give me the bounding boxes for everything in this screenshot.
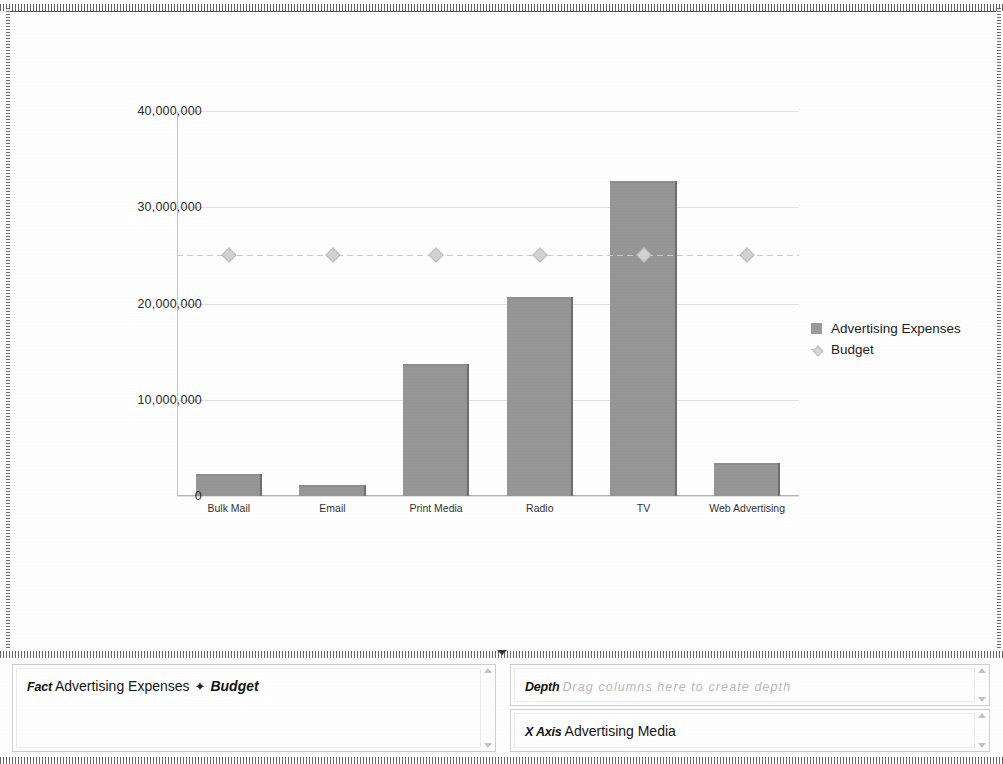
bar-slot	[592, 111, 696, 496]
fact-zone-label: Fact	[27, 680, 52, 694]
x-axis-tick-label: Bulk Mail	[177, 502, 281, 514]
depth-drop-zone[interactable]: DepthDrag columns here to create depth	[510, 664, 990, 706]
y-axis-tick-label: 0	[82, 489, 202, 503]
x-axis-value-advertising-media[interactable]: Advertising Media	[565, 723, 676, 739]
bar-print-media[interactable]	[403, 364, 469, 496]
depth-zone-label: Depth	[525, 680, 559, 694]
scroll-up-arrow-icon[interactable]	[978, 668, 986, 673]
x-axis-drop-zone-content[interactable]: X AxisAdvertising Media	[514, 713, 975, 748]
bar-slot	[384, 111, 488, 496]
x-axis-tick-label: Web Advertising	[695, 502, 799, 514]
bar-radio[interactable]	[507, 297, 573, 496]
window-top-border	[0, 4, 1003, 11]
x-axis-drop-zone[interactable]: X AxisAdvertising Media	[510, 709, 990, 752]
bar-series-advertising-expenses	[177, 111, 799, 496]
fact-value-advertising-expenses[interactable]: Advertising Expenses	[55, 678, 190, 694]
x-axis-tick-label: TV	[592, 502, 696, 514]
bar-slot	[281, 111, 385, 496]
gridline	[177, 496, 799, 497]
chart-canvas[interactable]: 010,000,00020,000,00030,000,00040,000,00…	[10, 12, 996, 648]
legend-label: Advertising Expenses	[831, 318, 961, 339]
fact-scrollbar[interactable]	[482, 666, 494, 750]
window-right-border	[997, 8, 1001, 648]
collapse-triangle-icon[interactable]	[497, 650, 507, 655]
depth-scrollbar[interactable]	[976, 666, 988, 704]
scroll-up-arrow-icon[interactable]	[978, 713, 986, 718]
y-axis-tick-label: 10,000,000	[82, 393, 202, 407]
depth-drop-zone-content[interactable]: DepthDrag columns here to create depth	[514, 668, 975, 702]
bar-email[interactable]	[299, 485, 365, 496]
y-axis-tick-label: 40,000,000	[82, 104, 202, 118]
square-swatch-icon	[811, 323, 822, 334]
legend-item-advertising-expenses[interactable]: Advertising Expenses	[811, 318, 996, 339]
scroll-down-arrow-icon[interactable]	[978, 697, 986, 702]
fact-value-budget[interactable]: Budget	[210, 678, 258, 694]
x-axis-scrollbar[interactable]	[976, 711, 988, 750]
bar-tv[interactable]	[610, 181, 676, 496]
depth-placeholder: Drag columns here to create depth	[562, 680, 791, 694]
bar-slot	[488, 111, 592, 496]
window-bottom-border	[0, 757, 1003, 764]
legend-label: Budget	[831, 339, 874, 360]
y-axis-tick-label: 20,000,000	[82, 297, 202, 311]
fact-drop-zone-content[interactable]: FactAdvertising Expenses✦Budget	[16, 668, 481, 748]
chart-legend: Advertising Expenses Budget	[811, 318, 996, 360]
scroll-down-arrow-icon[interactable]	[484, 743, 492, 748]
fact-separator-icon: ✦	[195, 679, 206, 694]
chart-frame: 010,000,00020,000,00030,000,00040,000,00…	[10, 11, 996, 647]
x-axis-zone-label: X Axis	[525, 725, 562, 739]
chart-designer-window: 010,000,00020,000,00030,000,00040,000,00…	[0, 0, 1003, 764]
x-axis-tick-label: Print Media	[384, 502, 488, 514]
scroll-up-arrow-icon[interactable]	[484, 668, 492, 673]
field-drop-panels: FactAdvertising Expenses✦Budget DepthDra…	[12, 662, 990, 754]
bar-bulk-mail[interactable]	[196, 474, 262, 496]
bar-web-advertising[interactable]	[714, 463, 780, 496]
legend-item-budget[interactable]: Budget	[811, 339, 996, 360]
bar-slot	[695, 111, 799, 496]
x-axis-tick-label: Email	[281, 502, 385, 514]
fact-drop-zone[interactable]: FactAdvertising Expenses✦Budget	[12, 664, 496, 752]
line-diamond-icon	[811, 344, 822, 355]
x-axis-tick-label: Radio	[488, 502, 592, 514]
y-axis-tick-label: 30,000,000	[82, 200, 202, 214]
plot-area	[177, 111, 799, 496]
scroll-down-arrow-icon[interactable]	[978, 743, 986, 748]
